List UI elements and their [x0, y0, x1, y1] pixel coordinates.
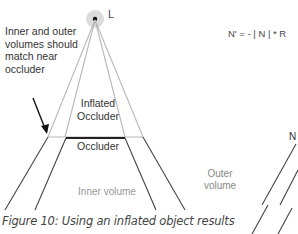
normal-line-3 — [252, 205, 268, 234]
inner-volume-left — [35, 138, 66, 210]
normal-label: N — [289, 131, 296, 143]
normal-line-1 — [262, 144, 296, 205]
arrow-head-icon — [41, 124, 49, 134]
normal-line-2 — [280, 170, 298, 205]
figure-caption: Figure 10: Using an inflated object resu… — [2, 215, 234, 229]
inner-volume-right — [125, 138, 156, 210]
outer-volume-left — [5, 137, 48, 210]
inflated-occluder-label: Inflated Occluder — [72, 97, 124, 122]
light-label: L — [108, 8, 114, 21]
normal-line-4 — [278, 208, 292, 234]
annotation-text: Inner and outer volumes should match nea… — [5, 25, 95, 75]
outer-volume-right — [143, 137, 185, 210]
outer-volume-label: Outer volume — [200, 168, 240, 192]
inner-volume-label: Inner volume — [72, 186, 142, 198]
occluder-label: Occluder — [70, 140, 126, 153]
normal-formula: N' = - | N | * R — [228, 28, 286, 39]
